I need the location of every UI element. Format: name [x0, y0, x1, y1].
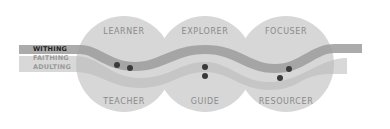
label-explorer: EXPLORER: [165, 27, 245, 36]
label-focuser: FOCUSER: [246, 27, 326, 36]
label-learner: LEARNER: [84, 27, 164, 36]
dot: [114, 62, 120, 68]
dot: [277, 75, 283, 81]
dot: [202, 73, 208, 79]
label-teacher: TEACHER: [84, 97, 164, 106]
legend-adulting: ADULTING: [19, 63, 71, 72]
legend-faithing: FAITHING: [19, 54, 71, 63]
dot: [127, 65, 133, 71]
legend-withing: WITHING: [19, 45, 71, 54]
dot: [286, 66, 292, 72]
label-resourcer: RESOURCER: [246, 97, 326, 106]
dot: [202, 64, 208, 70]
label-guide: GUIDE: [165, 97, 245, 106]
